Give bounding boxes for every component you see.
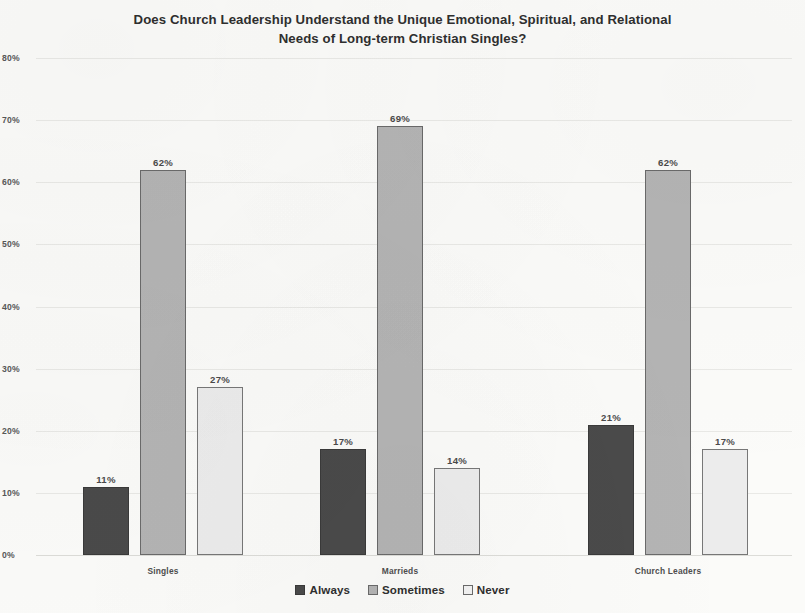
legend-label: Always (309, 583, 350, 596)
bar-wrap-always: 11% (83, 58, 129, 561)
legend-item-never[interactable]: Never (463, 583, 510, 596)
bar-church-leaders-sometimes[interactable] (645, 170, 691, 555)
legend-label: Never (477, 583, 510, 596)
bar-wrap-sometimes: 69% (377, 58, 423, 561)
bar-value-label: 69% (365, 113, 435, 124)
bar-group-singles: 11%62%27% (83, 58, 243, 561)
y-tick-label-60: 60% (2, 177, 32, 187)
bar-group-church-leaders: 21%62%17% (588, 58, 748, 561)
y-tick-label-70: 70% (2, 115, 32, 125)
chart-title-line-2: Needs of Long-term Christian Singles? (110, 29, 695, 48)
bar-chart: Does Church Leadership Understand the Un… (0, 0, 805, 613)
category-label-marrieds: Marrieds (310, 566, 490, 576)
bar-wrap-never: 17% (702, 58, 748, 561)
chart-title: Does Church Leadership Understand the Un… (110, 10, 695, 48)
legend-swatch-icon-sometimes (368, 585, 378, 595)
y-tick-label-0: 0% (2, 550, 32, 560)
bar-value-label: 17% (690, 436, 760, 447)
y-tick-label-20: 20% (2, 426, 32, 436)
bar-church-leaders-always[interactable] (588, 425, 634, 555)
bar-value-label: 27% (185, 374, 255, 385)
category-label-church-leaders: Church Leaders (578, 566, 758, 576)
legend-swatch-icon-never (463, 585, 473, 595)
category-label-singles: Singles (73, 566, 253, 576)
chart-title-line-1: Does Church Leadership Understand the Un… (110, 10, 695, 29)
bar-wrap-always: 17% (320, 58, 366, 561)
bar-marrieds-sometimes[interactable] (377, 126, 423, 555)
bar-singles-always[interactable] (83, 487, 129, 555)
legend-item-sometimes[interactable]: Sometimes (368, 583, 445, 596)
bar-value-label: 17% (308, 436, 378, 447)
bar-value-label: 14% (422, 455, 492, 466)
bar-wrap-sometimes: 62% (645, 58, 691, 561)
bar-singles-sometimes[interactable] (140, 170, 186, 555)
bar-singles-never[interactable] (197, 387, 243, 555)
y-tick-label-80: 80% (2, 53, 32, 63)
bar-marrieds-never[interactable] (434, 468, 480, 555)
bar-value-label: 21% (576, 412, 646, 423)
bar-church-leaders-never[interactable] (702, 449, 748, 555)
bar-marrieds-always[interactable] (320, 449, 366, 555)
bar-wrap-always: 21% (588, 58, 634, 561)
bar-value-label: 62% (633, 157, 703, 168)
legend-label: Sometimes (382, 583, 445, 596)
bar-group-marrieds: 17%69%14% (320, 58, 480, 561)
y-tick-label-10: 10% (2, 488, 32, 498)
bar-wrap-never: 14% (434, 58, 480, 561)
bar-value-label: 11% (71, 474, 141, 485)
chart-legend: AlwaysSometimesNever (0, 583, 805, 596)
bar-wrap-never: 27% (197, 58, 243, 561)
legend-swatch-icon-always (295, 585, 305, 595)
y-tick-label-50: 50% (2, 239, 32, 249)
legend-item-always[interactable]: Always (295, 583, 350, 596)
bar-value-label: 62% (128, 157, 198, 168)
bar-wrap-sometimes: 62% (140, 58, 186, 561)
y-tick-label-40: 40% (2, 302, 32, 312)
y-tick-label-30: 30% (2, 364, 32, 374)
plot-area: 80%70%60%50%40%30%20%10%0% 11%62%27%17%6… (36, 58, 792, 561)
